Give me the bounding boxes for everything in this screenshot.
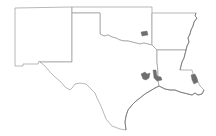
highlight-ok-central[interactable] xyxy=(141,31,148,36)
state-new-mexico[interactable] xyxy=(15,7,72,66)
region-map xyxy=(0,0,216,136)
map-container xyxy=(0,0,216,136)
